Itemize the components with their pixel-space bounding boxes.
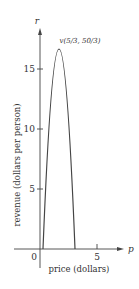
revenue-chart: r p v(5/3, 50/3) 15 10 5 0 5 price (doll… xyxy=(0,0,139,289)
y-tick-label-5: 5 xyxy=(29,184,35,194)
x-axis-var-label: p xyxy=(128,244,134,254)
y-axis-var-label: r xyxy=(35,16,40,26)
y-tick-label-10: 10 xyxy=(24,124,36,134)
y-axis-arrow-icon xyxy=(38,28,42,35)
y-axis-title: revenue (dollars per person) xyxy=(12,103,22,226)
x-axis-title: price (dollars) xyxy=(49,264,110,274)
x-tick-label-5: 5 xyxy=(94,252,100,262)
revenue-curve xyxy=(43,49,75,249)
vertex-label: v(5/3, 50/3) xyxy=(60,37,101,45)
origin-label: 0 xyxy=(31,252,37,262)
y-tick-label-15: 15 xyxy=(24,64,36,74)
x-axis-arrow-icon xyxy=(117,247,124,251)
